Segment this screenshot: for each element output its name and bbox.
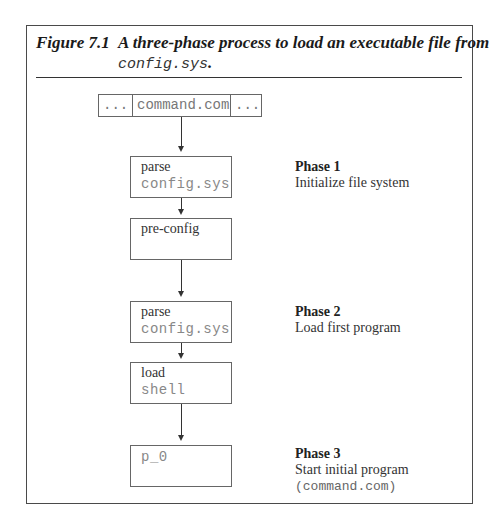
step-label: pre-config bbox=[141, 221, 231, 237]
figure-caption: A three-phase process to load an executa… bbox=[118, 33, 489, 75]
phase-description: Initialize file system bbox=[295, 175, 409, 191]
caption-rule bbox=[36, 77, 462, 78]
arrowhead-icon bbox=[178, 146, 184, 152]
arrowhead-icon bbox=[178, 353, 184, 359]
phase-1: Phase 1 Initialize file system bbox=[295, 159, 409, 191]
step-box-parse-config-2: parse config.sys bbox=[130, 301, 232, 343]
step-process: p_0 bbox=[141, 448, 231, 466]
strip-cell-ellipsis-right: ... bbox=[230, 95, 261, 116]
caption-line1: A three-phase process to load an executa… bbox=[118, 33, 489, 52]
step-label: load bbox=[141, 365, 231, 381]
arrow-line bbox=[181, 260, 182, 292]
step-box-load-shell: load shell bbox=[130, 362, 232, 404]
step-box-parse-config-1: parse config.sys bbox=[130, 156, 232, 198]
caption-period: . bbox=[208, 53, 212, 72]
step-filename: config.sys bbox=[141, 320, 231, 338]
phase-description: Start initial program bbox=[295, 462, 409, 478]
memory-strip: ... command.com ... bbox=[98, 94, 262, 117]
phase-title: Phase 3 bbox=[295, 446, 409, 462]
phase-title: Phase 1 bbox=[295, 159, 409, 175]
arrowhead-icon bbox=[178, 209, 184, 215]
phase-3: Phase 3 Start initial program (command.c… bbox=[295, 446, 409, 496]
step-filename: config.sys bbox=[141, 175, 231, 193]
step-filename: shell bbox=[141, 381, 231, 399]
step-label: parse bbox=[141, 159, 231, 175]
strip-cell-ellipsis-left: ... bbox=[99, 95, 132, 116]
arrowhead-icon bbox=[178, 291, 184, 297]
step-box-p0: p_0 bbox=[130, 445, 232, 487]
step-label: parse bbox=[141, 304, 231, 320]
arrow-line bbox=[181, 117, 182, 147]
caption-mono-filename: config.sys bbox=[118, 56, 208, 73]
strip-cell-command-com: command.com bbox=[132, 95, 230, 116]
arrow-line bbox=[181, 404, 182, 436]
phase-program-name: (command.com) bbox=[295, 478, 409, 496]
phase-title: Phase 2 bbox=[295, 304, 401, 320]
phase-2: Phase 2 Load first program bbox=[295, 304, 401, 336]
figure-label: Figure 7.1 bbox=[36, 33, 110, 53]
step-box-pre-config: pre-config bbox=[130, 218, 232, 260]
arrowhead-icon bbox=[178, 435, 184, 441]
phase-description: Load first program bbox=[295, 320, 401, 336]
